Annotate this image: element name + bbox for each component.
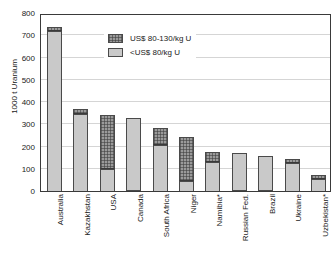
segment-low-cost bbox=[285, 163, 300, 191]
legend-item-low: <US$ 80/kg U bbox=[108, 47, 191, 58]
solid-gray-swatch-icon bbox=[108, 48, 123, 57]
bar-ukraine bbox=[285, 159, 300, 191]
y-tick-200: 200 bbox=[22, 144, 35, 152]
y-tick-100: 100 bbox=[22, 166, 35, 174]
segment-low-cost bbox=[311, 179, 326, 191]
plot-area: US$ 80-130/kg U <US$ 80/kg U bbox=[40, 14, 331, 192]
y-tick-0: 0 bbox=[31, 188, 35, 196]
bar-usa bbox=[100, 115, 115, 191]
bar-australia bbox=[47, 27, 62, 191]
legend-label-low: <US$ 80/kg U bbox=[130, 48, 180, 57]
uranium-resources-bar-chart: 1000 t Uranium 8007006005004003002001000… bbox=[0, 0, 334, 255]
bar-kazakhstan bbox=[73, 109, 88, 191]
segment-low-cost bbox=[73, 114, 88, 191]
segment-low-cost bbox=[232, 153, 247, 191]
segment-high-cost bbox=[179, 137, 194, 182]
segment-low-cost bbox=[258, 156, 273, 191]
segment-low-cost bbox=[100, 169, 115, 191]
bar-southafrica bbox=[153, 128, 168, 191]
bar-russianfed bbox=[232, 153, 247, 191]
x-tick-australia: Australia bbox=[57, 194, 65, 225]
bar-canada bbox=[126, 118, 141, 191]
segment-low-cost bbox=[153, 145, 168, 191]
segment-low-cost bbox=[205, 162, 220, 191]
x-tick-canada: Canada bbox=[137, 194, 145, 222]
segment-low-cost bbox=[179, 181, 194, 191]
y-tick-600: 600 bbox=[22, 55, 35, 63]
bar-uzbekistan bbox=[311, 175, 326, 191]
legend-item-high: US$ 80-130/kg U bbox=[108, 33, 191, 44]
x-tick-brazil: Brazil bbox=[269, 194, 277, 214]
x-tick-southafrica: South Africa bbox=[163, 194, 171, 237]
x-tick-niger: Niger bbox=[190, 194, 198, 213]
x-axis-tick-labels: AustraliaKazakhstanUSACanadaSouth Africa… bbox=[40, 194, 331, 255]
bar-namibia bbox=[205, 152, 220, 191]
segment-low-cost bbox=[47, 31, 62, 191]
y-axis-tick-labels: 8007006005004003002001000 bbox=[0, 0, 38, 255]
x-tick-kazakhstan: Kazakhstan bbox=[84, 194, 92, 236]
y-tick-300: 300 bbox=[22, 121, 35, 129]
y-tick-700: 700 bbox=[22, 32, 35, 40]
segment-high-cost bbox=[205, 152, 220, 162]
bar-brazil bbox=[258, 156, 273, 191]
segment-high-cost bbox=[100, 115, 115, 168]
legend: US$ 80-130/kg U <US$ 80/kg U bbox=[104, 29, 196, 62]
y-tick-800: 800 bbox=[22, 10, 35, 18]
legend-label-high: US$ 80-130/kg U bbox=[130, 34, 191, 43]
x-tick-uzbekistan: Uzbekistan* bbox=[322, 194, 330, 237]
stipple-swatch-icon bbox=[108, 34, 123, 43]
segment-high-cost bbox=[153, 128, 168, 146]
bar-niger bbox=[179, 137, 194, 192]
x-tick-usa: USA bbox=[110, 194, 118, 210]
segment-low-cost bbox=[126, 118, 141, 191]
x-tick-russianfed: Russian Fed. bbox=[242, 194, 250, 241]
x-tick-namibia: Namibia* bbox=[216, 194, 224, 226]
y-tick-400: 400 bbox=[22, 99, 35, 107]
x-tick-ukraine: Ukraine bbox=[295, 194, 303, 222]
y-tick-500: 500 bbox=[22, 77, 35, 85]
